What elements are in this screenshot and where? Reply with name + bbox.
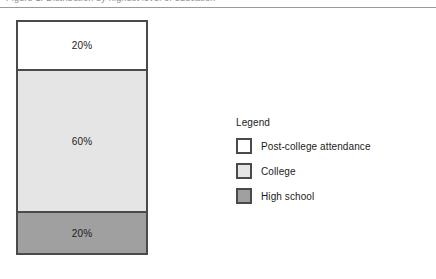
legend-item-college: College xyxy=(236,163,426,179)
bar-segment-label: 20% xyxy=(72,228,92,239)
chart-page: Figure 1. Distribution by highest level … xyxy=(0,0,436,279)
legend: Legend Post-college attendance College H… xyxy=(236,117,426,213)
bar-segment-high-school: 20% xyxy=(18,213,146,253)
bar-segment-label: 20% xyxy=(72,40,92,51)
legend-item-post-college: Post-college attendance xyxy=(236,138,426,154)
legend-title: Legend xyxy=(236,117,426,128)
medium-gray-swatch-icon xyxy=(236,188,252,204)
legend-item-high-school: High school xyxy=(236,188,426,204)
legend-item-label: High school xyxy=(261,191,314,202)
legend-item-label: College xyxy=(261,166,296,177)
bar-segment-college: 60% xyxy=(18,71,146,213)
light-gray-swatch-icon xyxy=(236,163,252,179)
horizontal-rule xyxy=(0,7,436,8)
bar-segment-post-college: 20% xyxy=(18,22,146,71)
white-swatch-icon xyxy=(236,138,252,154)
bar-segment-label: 60% xyxy=(72,136,92,147)
stacked-bar-chart: 20% 60% 20% xyxy=(16,20,148,255)
legend-item-label: Post-college attendance xyxy=(261,141,371,152)
clipped-header-text: Figure 1. Distribution by highest level … xyxy=(6,0,426,5)
